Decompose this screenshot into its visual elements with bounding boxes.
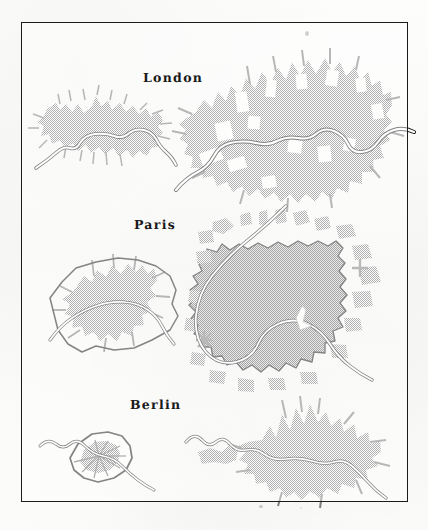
figure-page: London Paris Berlin xyxy=(0,0,428,530)
scan-speck xyxy=(305,31,309,36)
city-label-berlin: Berlin xyxy=(130,397,182,412)
scan-speck xyxy=(259,505,263,508)
city-label-paris: Paris xyxy=(134,217,176,232)
scan-speck xyxy=(300,507,302,509)
city-label-london: London xyxy=(143,70,203,85)
plate-frame xyxy=(21,22,408,502)
